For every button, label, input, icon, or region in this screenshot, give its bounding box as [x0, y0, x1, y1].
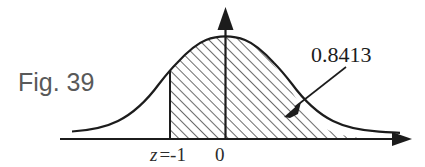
x-tick-z-variable: z	[149, 144, 158, 165]
figure-caption: Fig. 39	[18, 68, 94, 96]
x-tick-label-z: z=-1	[149, 144, 186, 165]
figure-canvas: Fig. 39 0.8413 z=-1 0	[0, 0, 425, 167]
normal-distribution-figure: Fig. 39 0.8413 z=-1 0	[0, 0, 425, 167]
y-axis-arrowhead-icon	[218, 7, 234, 30]
area-value-label: 0.8413	[311, 42, 372, 67]
x-tick-z-value: =-1	[159, 144, 186, 165]
x-axis-arrowhead-icon	[392, 132, 412, 146]
annotation-leader-line	[295, 67, 346, 107]
x-tick-label-zero: 0	[215, 144, 225, 165]
